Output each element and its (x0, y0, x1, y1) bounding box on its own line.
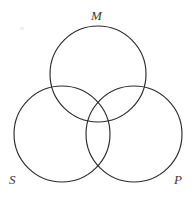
circle-p (86, 86, 182, 182)
circle-s (14, 86, 110, 182)
circle-label-p: P (174, 173, 182, 186)
circle-label-m: M (91, 9, 102, 22)
venn-diagram: M S P (0, 0, 194, 197)
venn-circles-canvas (0, 0, 194, 197)
circle-m (50, 26, 146, 122)
circle-label-s: S (9, 173, 16, 186)
